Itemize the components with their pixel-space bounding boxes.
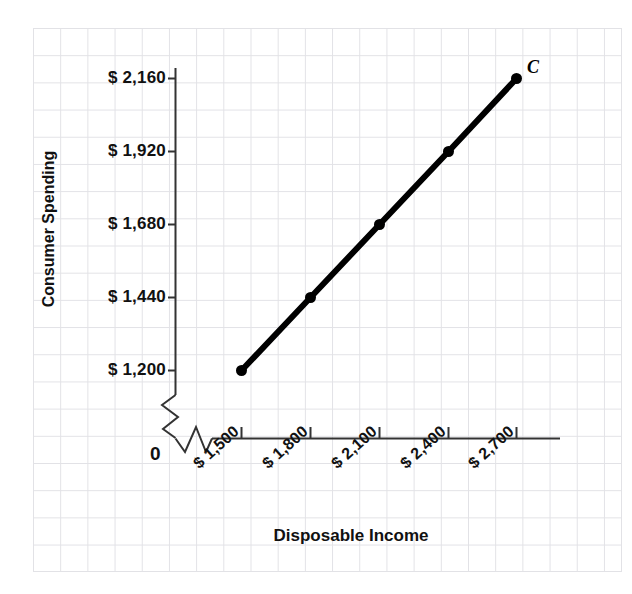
y-tick-label-1920: $ 1,920	[108, 141, 166, 161]
data-point	[305, 292, 316, 303]
data-point	[443, 146, 454, 157]
origin-zero-label: 0	[150, 443, 161, 465]
data-point	[236, 365, 247, 376]
y-tick-label-2160: $ 2,160	[108, 68, 166, 88]
data-point	[374, 219, 385, 230]
y-tick-label-1440: $ 1,440	[108, 287, 166, 307]
x-axis-title: Disposable Income	[176, 526, 526, 546]
y-axis-title: Consumer Spending	[40, 144, 58, 314]
chart-page: $ 2,160 $ 1,920 $ 1,680 $ 1,440 $ 1,200 …	[0, 0, 632, 594]
y-tick-label-1680: $ 1,680	[108, 214, 166, 234]
curve-label-c: C	[527, 57, 539, 78]
y-tick-label-1200: $ 1,200	[108, 360, 166, 380]
data-point	[511, 73, 522, 84]
y-axis-tick-labels: $ 2,160 $ 1,920 $ 1,680 $ 1,440 $ 1,200	[56, 0, 166, 594]
